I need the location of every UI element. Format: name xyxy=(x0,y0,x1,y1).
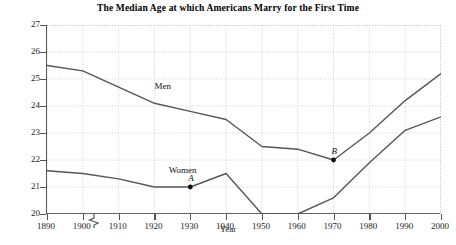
x-tick-mark xyxy=(83,214,84,220)
series-line-men xyxy=(47,66,441,161)
y-tick-label: 23 xyxy=(18,128,40,137)
data-point-b xyxy=(331,158,336,163)
series-lines xyxy=(47,66,441,215)
x-tick-mark xyxy=(441,214,442,220)
point-label-b: B xyxy=(332,147,338,156)
y-tick-label: 25 xyxy=(18,74,40,83)
plot-area: MenWomen AB xyxy=(46,25,440,214)
point-label-a: A xyxy=(188,174,194,183)
series-label-men: Men xyxy=(154,82,171,91)
gridlines xyxy=(47,25,441,214)
x-tick-mark xyxy=(119,214,120,220)
plot-svg xyxy=(47,25,441,214)
x-tick-mark xyxy=(154,214,155,220)
x-tick-mark xyxy=(190,214,191,220)
x-tick-mark xyxy=(298,214,299,220)
data-point-a xyxy=(188,185,193,190)
x-tick-mark xyxy=(405,214,406,220)
y-tick-label: 24 xyxy=(18,101,40,110)
y-tick-label: 27 xyxy=(18,20,40,29)
chart-title: The Median Age at which Americans Marry … xyxy=(0,3,456,13)
x-tick-mark xyxy=(226,214,227,220)
y-tick-label: 21 xyxy=(18,182,40,191)
x-tick-mark xyxy=(334,214,335,220)
series-line-women xyxy=(47,117,441,214)
x-tick-mark xyxy=(262,214,263,220)
y-tick-label: 20 xyxy=(18,209,40,218)
y-tick-label: 26 xyxy=(18,47,40,56)
chart-figure: The Median Age at which Americans Marry … xyxy=(0,0,456,245)
y-tick-mark xyxy=(40,214,46,215)
x-axis-label: Year xyxy=(0,224,456,234)
y-tick-label: 22 xyxy=(18,155,40,164)
x-tick-mark xyxy=(47,214,48,220)
x-tick-mark xyxy=(369,214,370,220)
